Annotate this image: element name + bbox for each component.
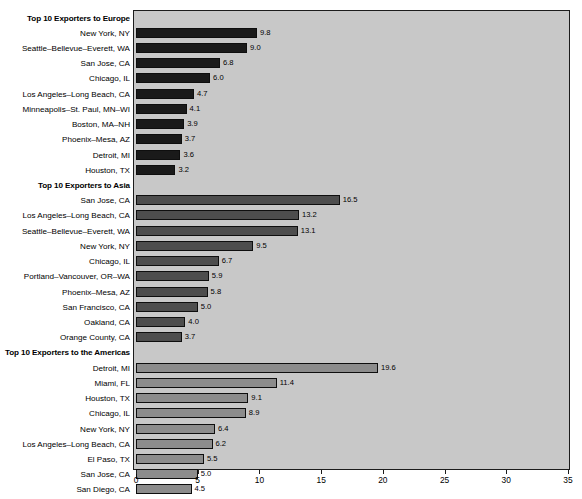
bar-value-label: 5.0 — [198, 303, 212, 311]
bar[interactable] — [136, 408, 246, 418]
bar[interactable] — [136, 439, 213, 449]
bar-row: Detroit, MI3.6 — [0, 147, 582, 162]
bar[interactable] — [136, 89, 194, 99]
bar-row: Phoenix–Mesa, AZ5.8 — [0, 284, 582, 299]
bar-value-label: 3.7 — [182, 333, 196, 341]
bar[interactable] — [136, 393, 248, 403]
bar-category-label: San Jose, CA — [81, 196, 131, 205]
x-axis-tick-mark — [506, 470, 507, 474]
bar-value-label: 13.1 — [298, 227, 316, 235]
bar[interactable] — [136, 210, 299, 220]
bar-value-label: 3.6 — [180, 151, 194, 159]
section-header-row: Top 10 Exporters to Europe — [0, 10, 582, 25]
bar-value-label: 6.2 — [213, 440, 227, 448]
bar[interactable] — [136, 317, 185, 327]
bar-category-label: New York, NY — [80, 28, 130, 37]
section-header-label: Top 10 Exporters to Asia — [38, 181, 130, 190]
bar[interactable] — [136, 378, 277, 388]
x-axis: 05101520253035 — [133, 470, 570, 496]
bar[interactable] — [136, 226, 298, 236]
bar-category-label: Boston, MA–NH — [72, 120, 130, 129]
x-axis-tick-label: 30 — [502, 475, 511, 485]
bar-category-label: New York, NY — [80, 424, 130, 433]
bar-row: Detroit, MI19.6 — [0, 360, 582, 375]
bar[interactable] — [136, 302, 198, 312]
bar-value-label: 3.2 — [175, 166, 189, 174]
bar-category-label: San Francisco, CA — [63, 302, 130, 311]
bar-value-label: 5.5 — [204, 455, 218, 463]
bar-category-label: Los Angeles–Long Beach, CA — [22, 211, 130, 220]
bar[interactable] — [136, 119, 184, 129]
bar-value-label: 9.1 — [248, 394, 262, 402]
bar[interactable] — [136, 241, 253, 251]
bar-category-label: Oakland, CA — [84, 317, 130, 326]
bar-category-label: Miami, FL — [94, 378, 130, 387]
bar-value-label: 16.5 — [340, 196, 358, 204]
bar-category-label: Phoenix–Mesa, AZ — [62, 287, 130, 296]
bar-category-label: Detroit, MI — [93, 150, 130, 159]
bar-row: Los Angeles–Long Beach, CA4.7 — [0, 86, 582, 101]
bar[interactable] — [136, 271, 209, 281]
bar-row: Los Angeles–Long Beach, CA13.2 — [0, 208, 582, 223]
bar-category-label: Houston, TX — [85, 165, 130, 174]
bar-value-label: 5.8 — [208, 288, 222, 296]
bar-value-label: 4.7 — [194, 90, 208, 98]
bar[interactable] — [136, 195, 340, 205]
bar-row: Miami, FL11.4 — [0, 375, 582, 390]
bar[interactable] — [136, 58, 220, 68]
bar[interactable] — [136, 332, 182, 342]
bar-row: San Jose, CA6.8 — [0, 56, 582, 71]
bar[interactable] — [136, 363, 378, 373]
bar[interactable] — [136, 104, 187, 114]
bar-row: Seattle–Bellevue–Everett, WA9.0 — [0, 40, 582, 55]
x-axis-tick-mark — [383, 470, 384, 474]
bar-category-label: San Diego, CA — [76, 485, 130, 494]
bar-value-label: 6.0 — [210, 74, 224, 82]
bar[interactable] — [136, 454, 204, 464]
x-axis-tick-mark — [198, 470, 199, 474]
bar-row: Orange County, CA3.7 — [0, 330, 582, 345]
bar-category-label: Houston, TX — [85, 394, 130, 403]
bar-value-label: 3.9 — [184, 120, 198, 128]
bar-row: Portland–Vancouver, OR–WA5.9 — [0, 269, 582, 284]
bar[interactable] — [136, 424, 215, 434]
bar[interactable] — [136, 73, 210, 83]
bar-row: Chicago, IL6.0 — [0, 71, 582, 86]
bar-chart: Top 10 Exporters to EuropeNew York, NY9.… — [0, 0, 582, 499]
x-axis-tick-label: 20 — [378, 475, 387, 485]
bar-category-label: New York, NY — [80, 241, 130, 250]
bar-row: Los Angeles–Long Beach, CA6.2 — [0, 436, 582, 451]
x-axis-tick-label: 0 — [134, 475, 139, 485]
bar-row: New York, NY6.4 — [0, 421, 582, 436]
bar[interactable] — [136, 256, 219, 266]
bar-value-label: 9.5 — [253, 242, 267, 250]
bar-row: New York, NY9.8 — [0, 25, 582, 40]
x-axis-tick-label: 35 — [563, 475, 572, 485]
x-axis-tick-mark — [136, 470, 137, 474]
x-axis-tick-mark — [321, 470, 322, 474]
bar-row: El Paso, TX5.5 — [0, 451, 582, 466]
bar[interactable] — [136, 287, 208, 297]
bar[interactable] — [136, 150, 180, 160]
bar-category-label: Los Angeles–Long Beach, CA — [22, 89, 130, 98]
section-header-label: Top 10 Exporters to Europe — [27, 13, 130, 22]
bar[interactable] — [136, 43, 247, 53]
x-axis-tick-label: 5 — [195, 475, 200, 485]
bar-row: San Francisco, CA5.0 — [0, 299, 582, 314]
bar-row: Boston, MA–NH3.9 — [0, 117, 582, 132]
x-axis-tick-mark — [568, 470, 569, 474]
bar[interactable] — [136, 165, 175, 175]
bar-category-label: Phoenix–Mesa, AZ — [62, 135, 130, 144]
bar-value-label: 6.8 — [220, 59, 234, 67]
bar[interactable] — [136, 28, 257, 38]
bar-category-label: Seattle–Bellevue–Everett, WA — [22, 226, 130, 235]
section-header-row: Top 10 Exporters to the Americas — [0, 345, 582, 360]
bar-value-label: 6.4 — [215, 425, 229, 433]
bar-category-label: Seattle–Bellevue–Everett, WA — [22, 44, 130, 53]
bar-row: San Jose, CA16.5 — [0, 193, 582, 208]
bar-row: Chicago, IL6.7 — [0, 254, 582, 269]
bar-value-label: 4.1 — [187, 105, 201, 113]
bar-value-label: 9.8 — [257, 29, 271, 37]
bar[interactable] — [136, 134, 182, 144]
bar-category-label: Detroit, MI — [93, 363, 130, 372]
